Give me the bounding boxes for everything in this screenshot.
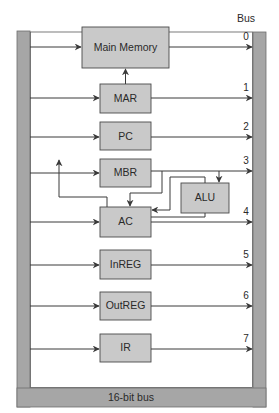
bus-line-3-label: 3	[243, 155, 249, 166]
mbr-label: MBR	[114, 166, 138, 178]
bus-line-6-label: 6	[243, 290, 249, 301]
alu-label: ALU	[195, 191, 215, 203]
bus-line-7-label: 7	[243, 333, 249, 344]
ir-label: IR	[120, 341, 131, 353]
bus-line-0-label: 0	[243, 31, 249, 42]
bus-line-4-label: 4	[243, 206, 249, 217]
bus-label: 16-bit bus	[108, 391, 154, 403]
bus-line-1-label: 1	[243, 82, 249, 93]
ac-label: AC	[118, 215, 133, 227]
inreg-label: InREG	[110, 258, 142, 270]
bus-title: Bus	[237, 12, 255, 24]
pc-label: PC	[118, 130, 133, 142]
left-bus-bar	[17, 31, 30, 407]
outreg-label: OutREG	[106, 299, 146, 311]
bus-line-5-label: 5	[243, 249, 249, 260]
bus-line-2-label: 2	[243, 121, 249, 132]
right-bus-bar	[253, 32, 266, 407]
mar-label: MAR	[114, 92, 138, 104]
marie-datapath-diagram: Bus 16-bit bus Main Memory 0 MAR 1 PC 2 …	[0, 0, 279, 413]
main-memory-label: Main Memory	[94, 41, 158, 53]
